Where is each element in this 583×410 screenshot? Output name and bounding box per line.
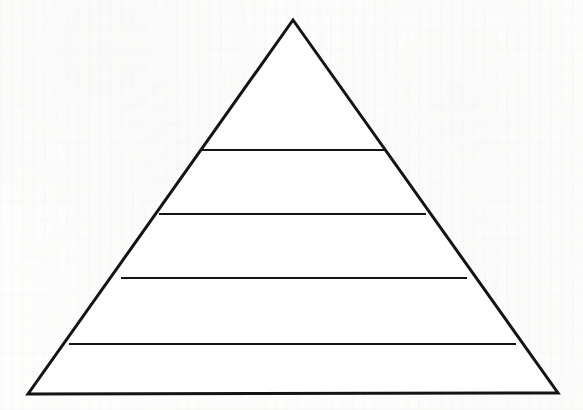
- band-base[interactable]: [28, 344, 558, 394]
- band-fourth[interactable]: [70, 278, 515, 344]
- band-apex[interactable]: [203, 20, 384, 150]
- figure-canvas: [0, 0, 583, 410]
- band-third[interactable]: [122, 214, 466, 278]
- band-second[interactable]: [160, 150, 425, 214]
- pyramid-diagram: [0, 0, 583, 410]
